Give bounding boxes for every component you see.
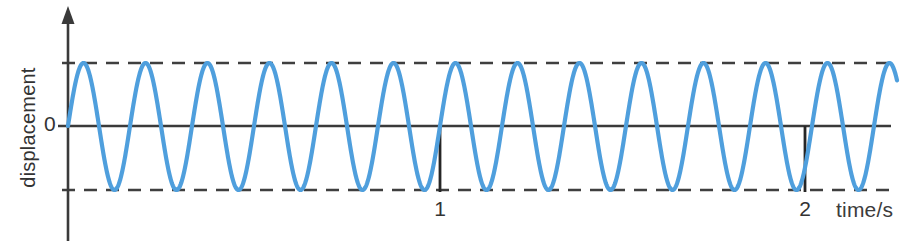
y-axis-label: displacement (17, 48, 40, 208)
displacement-time-figure: displacement 0 time/s 1 2 (0, 0, 923, 250)
plot-canvas (0, 0, 923, 250)
y-axis-arrow-icon (62, 6, 75, 24)
y-axis-zero-label: 0 (44, 112, 56, 136)
x-tick-label-1: 1 (428, 197, 452, 221)
x-tick-label-2: 2 (793, 197, 817, 221)
x-axis-label: time/s (836, 198, 893, 222)
